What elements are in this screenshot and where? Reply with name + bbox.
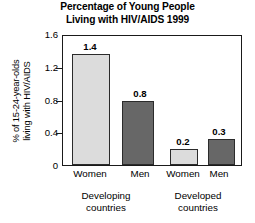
bar-developing-women: [72, 54, 110, 165]
x-tick-label-developed-men: Men: [191, 168, 247, 179]
bar-value-developing-women: 1.4: [62, 42, 118, 52]
bar-chart: Percentage of Young People Living with H…: [0, 0, 255, 223]
group-label-developing: Developing countries: [60, 190, 152, 213]
x-tick-label-developing-women: Women: [62, 168, 118, 179]
y-tick-label-0400: 0.4: [14, 128, 58, 138]
bar-value-developing-men: 0.8: [112, 89, 168, 99]
bar-value-developed-men: 0.3: [191, 127, 247, 137]
group-label-developed-line-1: Developed: [175, 190, 222, 201]
bar-developed-women: [170, 149, 198, 165]
chart-title-line-1: Percentage of Young People: [60, 1, 195, 12]
y-tick-label-0800: 0.8: [14, 96, 58, 106]
y-tick-label-1200: 1.2: [14, 63, 58, 73]
bar-developed-men: [208, 139, 235, 165]
group-label-developed-line-2: countries: [152, 202, 244, 214]
y-tick-label-0: 0: [14, 161, 58, 171]
group-label-developing-line-2: countries: [60, 202, 152, 214]
group-label-developed: Developed countries: [152, 190, 244, 213]
bar-value-developed-women: 0.2: [155, 137, 211, 147]
group-label-developing-line-1: Developing: [81, 190, 130, 201]
chart-title: Percentage of Young People Living with H…: [0, 1, 255, 26]
y-tick-label-1600: 1.6: [14, 30, 58, 40]
bar-developing-men: [122, 101, 154, 165]
plot-area: [62, 35, 242, 166]
chart-title-line-2: Living with HIV/AIDS 1999: [0, 14, 255, 27]
